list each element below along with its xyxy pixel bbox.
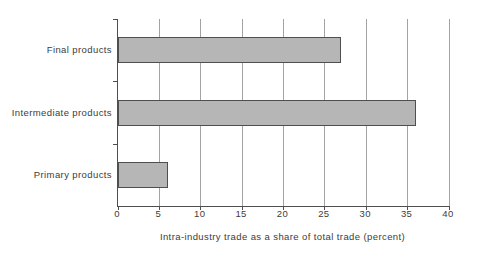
x-tick-label: 20 [271,208,295,219]
x-tick-label: 5 [146,208,170,219]
category-label: Primary products [0,169,112,181]
x-tick-label: 10 [188,208,212,219]
bar [118,100,416,126]
category-label: Final products [0,44,112,56]
plot-area [117,19,449,207]
category-axis: Final productsIntermediate productsPrima… [0,19,112,206]
y-tick-mark [113,81,118,82]
bar-chart: Final productsIntermediate productsPrima… [0,0,477,257]
x-tick-label: 35 [395,208,419,219]
x-tick-label: 15 [229,208,253,219]
gridline [449,19,450,206]
y-tick-mark [113,19,118,20]
bar [118,162,168,188]
x-tick-label: 0 [105,208,129,219]
x-tick-label: 40 [436,208,460,219]
category-label: Intermediate products [0,107,112,119]
x-axis-label: Intra-industry trade as a share of total… [117,231,448,242]
x-tick-label: 30 [353,208,377,219]
y-tick-mark [113,144,118,145]
x-tick-label: 25 [312,208,336,219]
bar [118,37,341,63]
